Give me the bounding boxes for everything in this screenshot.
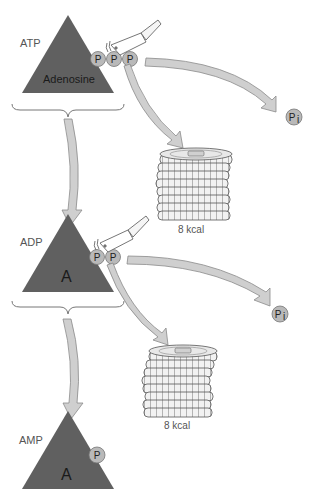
pi-product-2: P i <box>272 306 288 322</box>
svg-text:P: P <box>289 112 296 123</box>
adp-brace <box>12 301 124 314</box>
svg-text:i: i <box>297 114 299 125</box>
cleaver-icon <box>106 20 161 55</box>
adp-label: ADP <box>20 236 43 248</box>
svg-text:P: P <box>94 450 101 461</box>
atp-energy-arrow <box>124 64 183 148</box>
svg-text:P: P <box>111 54 118 65</box>
atp-to-adp-arrow <box>62 119 82 226</box>
svg-text:P: P <box>110 252 117 263</box>
amp-label: AMP <box>19 434 43 446</box>
atp-brace <box>12 104 124 117</box>
svg-text:P: P <box>95 54 102 65</box>
adp-energy-arrow <box>107 263 168 345</box>
svg-text:i: i <box>283 311 285 322</box>
coin-stack-icon <box>142 345 217 417</box>
energy-label-1: 8 kcal <box>178 224 204 235</box>
amp-base-label: A <box>61 466 72 484</box>
atp-label: ATP <box>20 37 41 49</box>
atp-pi-arrow <box>145 58 276 112</box>
adp-to-amp-arrow <box>63 319 83 419</box>
pi-product-1: P i <box>286 109 302 125</box>
adenosine-label: Adenosine <box>43 73 95 85</box>
coin-stack-icon <box>156 148 232 220</box>
adp-phosphates: P P <box>90 250 121 265</box>
svg-text:P: P <box>94 252 101 263</box>
adp-base-label: A <box>61 268 72 286</box>
cleaver-icon <box>94 216 149 252</box>
adp-pi-arrow <box>127 256 270 306</box>
amp-phosphate: P <box>89 447 105 463</box>
energy-label-2: 8 kcal <box>164 420 190 431</box>
svg-text:P: P <box>127 54 134 65</box>
svg-text:P: P <box>275 309 282 320</box>
